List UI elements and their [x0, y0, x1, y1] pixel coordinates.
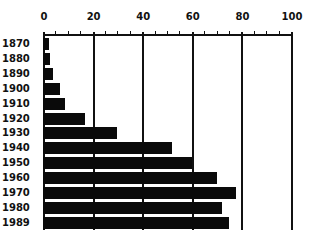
y-category-label: 1890	[2, 68, 38, 79]
minor-tick	[217, 31, 218, 35]
bar	[43, 217, 229, 229]
bar-chart: 0204060801001870188018901900191019201930…	[0, 0, 314, 243]
bar	[43, 53, 50, 65]
bar	[43, 172, 217, 184]
bar	[43, 68, 53, 80]
bar	[43, 98, 65, 110]
y-category-label: 1970	[2, 187, 38, 198]
y-category-label: 1989	[2, 217, 38, 228]
minor-tick	[229, 31, 230, 35]
y-category-label: 1880	[2, 53, 38, 64]
bar	[43, 127, 117, 139]
y-category-label: 1900	[2, 83, 38, 94]
bar	[43, 38, 49, 50]
minor-tick	[204, 31, 205, 35]
x-tick-label: 20	[87, 11, 101, 22]
y-category-label: 1960	[2, 172, 38, 183]
gridline	[192, 32, 194, 230]
bar	[43, 202, 222, 214]
x-tick-label: 40	[136, 11, 150, 22]
x-tick-label: 60	[186, 11, 200, 22]
y-category-label: 1980	[2, 202, 38, 213]
bar	[43, 187, 236, 199]
y-category-label: 1930	[2, 127, 38, 138]
minor-tick	[105, 31, 106, 35]
y-category-label: 1950	[2, 157, 38, 168]
minor-tick	[179, 31, 180, 35]
minor-tick	[254, 31, 255, 35]
x-tick-label: 80	[235, 11, 249, 22]
x-tick-label: 100	[282, 11, 303, 22]
minor-tick	[279, 31, 280, 35]
x-tick-label: 0	[41, 11, 48, 22]
minor-tick	[55, 31, 56, 35]
y-category-label: 1940	[2, 142, 38, 153]
gridline	[142, 32, 144, 230]
y-category-label: 1920	[2, 113, 38, 124]
bar	[43, 157, 192, 169]
bar	[43, 142, 172, 154]
minor-tick	[266, 31, 267, 35]
gridline	[291, 32, 293, 230]
y-category-label: 1870	[2, 38, 38, 49]
gridline	[241, 32, 243, 230]
bar	[43, 113, 85, 125]
bar	[43, 83, 60, 95]
minor-tick	[155, 31, 156, 35]
minor-tick	[68, 31, 69, 35]
minor-tick	[117, 31, 118, 35]
minor-tick	[167, 31, 168, 35]
minor-tick	[80, 31, 81, 35]
y-category-label: 1910	[2, 98, 38, 109]
minor-tick	[130, 31, 131, 35]
